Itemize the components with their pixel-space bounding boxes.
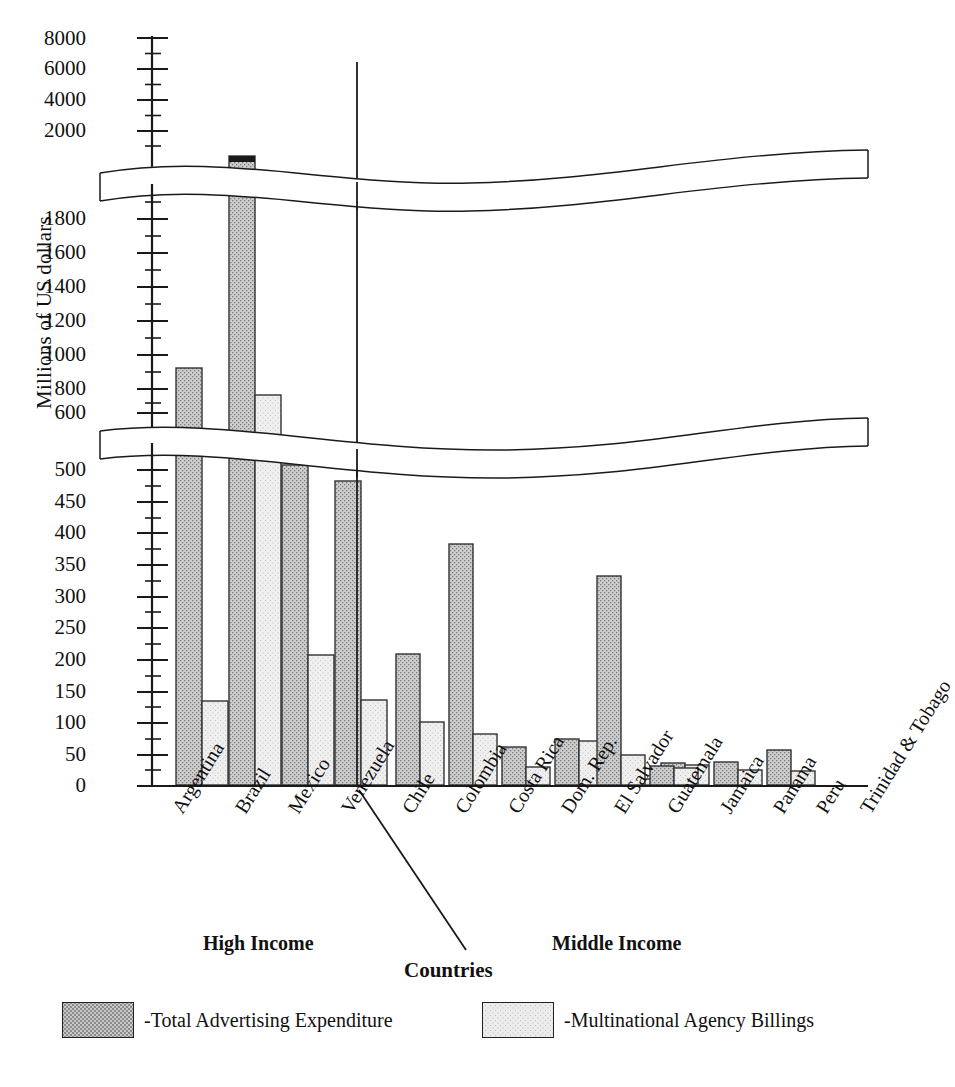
bar-total [449, 544, 473, 785]
legend-label: -Total Advertising Expenditure [144, 1009, 393, 1032]
total-advertising-swatch [62, 1002, 134, 1038]
bar-total [282, 465, 308, 785]
group-label-high-income: High Income [203, 932, 314, 955]
legend-label: -Multinational Agency Billings [564, 1009, 814, 1032]
x-axis-title: Countries [404, 958, 493, 983]
bar-group-brazil [229, 156, 281, 785]
bar-group-chile [396, 654, 444, 785]
bar-total [396, 654, 420, 785]
axis-break-upper [100, 150, 868, 211]
bar-total-cap [229, 156, 255, 162]
chart-legend: -Total Advertising Expenditure -Multinat… [62, 1002, 862, 1046]
bar-total [229, 156, 255, 785]
group-label-middle-income: Middle Income [552, 932, 681, 955]
legend-item-multinational-billings: -Multinational Agency Billings [482, 1002, 814, 1038]
legend-item-total-advertising: -Total Advertising Expenditure [62, 1002, 393, 1038]
bar-group-mexico [282, 465, 334, 785]
axis-break-lower [100, 418, 868, 478]
multinational-billings-swatch [482, 1002, 554, 1038]
